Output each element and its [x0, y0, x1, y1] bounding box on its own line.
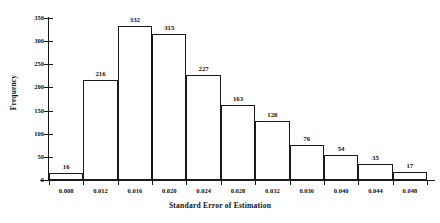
y-axis-tick-label: 200 — [18, 84, 44, 91]
y-axis-tick-mark — [44, 64, 53, 65]
y-axis-tick-mark — [44, 41, 53, 42]
histogram-bar — [152, 34, 186, 180]
y-axis-tick-label-wrap: 100 — [12, 134, 44, 135]
y-axis-tick-label: 50 — [18, 154, 44, 161]
histogram-bar — [221, 105, 255, 180]
bar-value-label: 35 — [355, 155, 395, 162]
y-axis-tick-label-wrap: 350 — [12, 18, 44, 19]
x-axis-tick-mark — [49, 180, 50, 185]
histogram-bar — [393, 172, 427, 180]
histogram-bar — [358, 164, 392, 180]
x-axis-tick-label: 0.048 — [390, 188, 430, 195]
y-axis-tick-label: 300 — [18, 38, 44, 45]
histogram-bar — [186, 75, 220, 180]
bar-value-label: 76 — [287, 136, 327, 143]
histogram-bar — [255, 121, 289, 180]
x-axis-tick-mark — [324, 180, 325, 185]
y-axis-tick-label: 350 — [18, 15, 44, 22]
x-axis-line — [40, 180, 435, 181]
x-axis-title: Standard Error of Estimation — [0, 201, 440, 210]
bar-value-label: 54 — [321, 146, 361, 153]
bar-value-label: 315 — [149, 25, 189, 32]
y-axis-tick-label-wrap: 0 — [12, 180, 44, 181]
y-axis-tick-mark — [44, 111, 53, 112]
histogram-bar — [118, 26, 152, 180]
x-axis-tick-mark — [221, 180, 222, 185]
y-axis-tick-mark — [44, 87, 53, 88]
y-axis-tick-mark — [44, 134, 53, 135]
bar-value-label: 163 — [218, 96, 258, 103]
y-axis-tick-mark — [44, 18, 53, 19]
y-axis-tick-label: 0 — [18, 177, 44, 184]
x-axis-tick-mark — [358, 180, 359, 185]
histogram-bar — [49, 173, 83, 180]
bar-value-label: 17 — [390, 163, 430, 170]
bar-value-label: 16 — [46, 164, 86, 171]
histogram-bar — [290, 145, 324, 180]
y-axis-tick-label-wrap: 300 — [12, 41, 44, 42]
bar-value-label: 128 — [252, 112, 292, 119]
x-axis-tick-mark — [83, 180, 84, 185]
y-axis-tick-label-wrap: 50 — [12, 157, 44, 158]
x-axis-tick-mark — [118, 180, 119, 185]
x-axis-tick-mark — [427, 180, 428, 185]
histogram-bar — [83, 80, 117, 180]
y-axis-title: Frequency — [9, 58, 18, 128]
bar-value-label: 332 — [115, 17, 155, 24]
x-axis-tick-mark — [290, 180, 291, 185]
y-axis-tick-mark — [44, 157, 53, 158]
histogram-figure: 050100150200250300350 0.0080.0120.0160.0… — [0, 0, 440, 223]
x-axis-tick-mark — [152, 180, 153, 185]
histogram-bar — [324, 155, 358, 180]
bar-value-label: 227 — [184, 66, 224, 73]
y-axis-tick-label: 100 — [18, 131, 44, 138]
x-axis-tick-mark — [255, 180, 256, 185]
y-axis-tick-label: 150 — [18, 108, 44, 115]
y-axis-tick-label: 250 — [18, 61, 44, 68]
x-axis-tick-mark — [186, 180, 187, 185]
bar-value-label: 216 — [81, 71, 121, 78]
x-axis-tick-mark — [393, 180, 394, 185]
